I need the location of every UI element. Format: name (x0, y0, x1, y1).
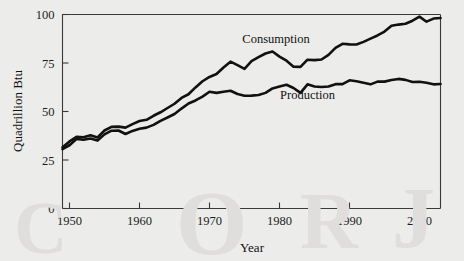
y-axis-ticks (63, 15, 69, 209)
x-tick-label: 1990 (337, 214, 362, 228)
y-tick-label: 100 (36, 8, 55, 22)
series-annotations: ConsumptionProduction (242, 32, 335, 102)
y-tick-label: 75 (42, 57, 55, 71)
x-tick-label: 1950 (57, 214, 82, 228)
x-tick-label: 1970 (197, 214, 222, 228)
series-label-consumption: Consumption (242, 32, 310, 46)
y-tick-label: 0 (48, 202, 54, 216)
x-tick-label: 2000 (407, 214, 432, 228)
y-axis-title: Quadrillion Btu (10, 70, 25, 152)
y-tick-label: 50 (42, 105, 55, 119)
y-axis-tick-labels: 0255075100 (36, 8, 55, 216)
x-axis-ticks (70, 203, 420, 209)
x-tick-label: 1980 (267, 214, 292, 228)
series-label-production: Production (280, 88, 336, 102)
y-tick-label: 25 (42, 154, 55, 168)
x-axis-tick-labels: 195019601970198019902000 (57, 214, 432, 228)
line-chart: 195019601970198019902000 0255075100 Cons… (0, 0, 464, 261)
x-axis-title: Year (240, 240, 265, 255)
series-line-production (63, 79, 441, 149)
x-tick-label: 1960 (127, 214, 152, 228)
energy-chart-figure: C O R J 195019601970198019902000 0255075… (0, 0, 464, 261)
